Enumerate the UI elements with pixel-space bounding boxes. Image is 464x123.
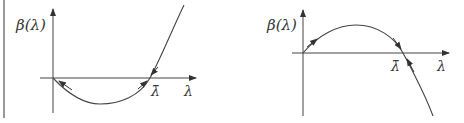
right-x-label: λ xyxy=(436,58,446,74)
right-y-label: β(λ) xyxy=(266,16,297,34)
left-root-label: λ̄ xyxy=(150,83,160,99)
right-flow-arrow-3 xyxy=(407,59,414,72)
figure: β(λ) λ̄ λ β(λ) λ̄ λ xyxy=(0,0,464,123)
left-panel: β(λ) λ̄ λ xyxy=(15,5,196,113)
right-flow-arrow-1 xyxy=(307,39,317,47)
left-curve xyxy=(53,5,184,104)
left-x-label: λ xyxy=(183,83,193,99)
left-y-label: β(λ) xyxy=(15,16,46,34)
right-panel: β(λ) λ̄ λ xyxy=(266,10,449,116)
right-root-label: λ̄ xyxy=(390,58,400,74)
right-flow-arrow-2 xyxy=(393,38,401,49)
